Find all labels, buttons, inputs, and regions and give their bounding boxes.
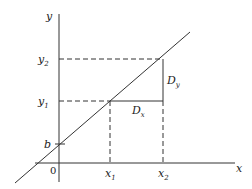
dy-label: Dy xyxy=(166,74,181,89)
x1-label: x1 xyxy=(105,167,116,182)
x-axis-label: x xyxy=(236,162,243,175)
y2-label: y2 xyxy=(37,53,49,68)
slope-diagram: y x 0 b y2 y1 x1 x2 Dx Dy xyxy=(0,0,252,189)
dx-label: Dx xyxy=(131,104,145,119)
intercept-label: b xyxy=(44,138,51,151)
y1-label: y1 xyxy=(37,95,49,110)
origin-label: 0 xyxy=(50,165,56,176)
y-axis-label: y xyxy=(45,10,53,23)
x2-label: x2 xyxy=(158,167,169,182)
